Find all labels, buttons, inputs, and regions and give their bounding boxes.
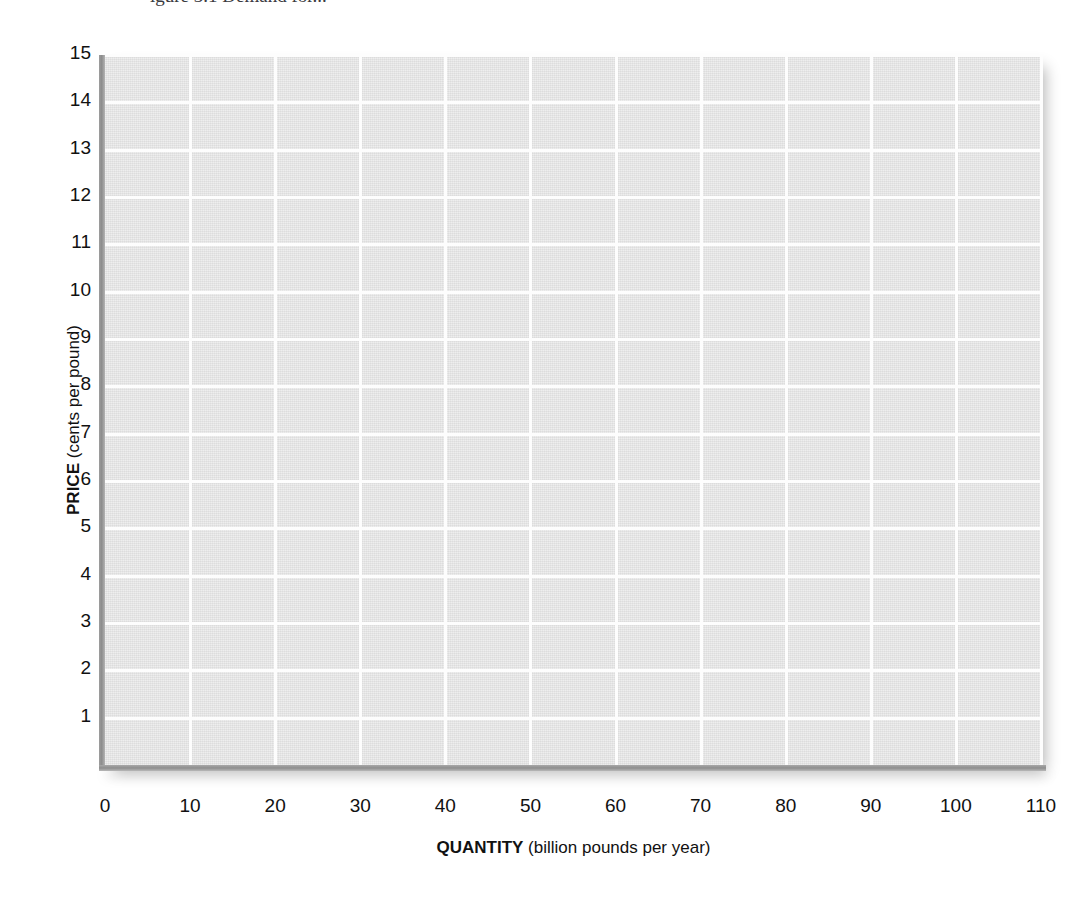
x-tick-label: 100 [911,795,1001,817]
gridline-horizontal [105,433,1041,436]
y-axis-title-rest: (cents per pound) [64,325,83,463]
gridline-horizontal [105,717,1041,720]
y-axis-title-bold: PRICE [64,463,83,515]
x-tick-label: 10 [145,795,235,817]
gridline-vertical [1040,55,1043,765]
gridline-horizontal [105,385,1041,388]
y-tick-label: 15 [7,42,91,64]
plot-texture-overlay [105,55,1041,765]
gridline-horizontal [105,101,1041,104]
gridline-horizontal [105,669,1041,672]
gridline-vertical [700,55,703,765]
gridline-vertical [274,55,277,765]
x-tick-label: 70 [656,795,746,817]
x-tick-label: 80 [741,795,831,817]
gridline-horizontal [105,622,1041,625]
x-tick-label: 30 [315,795,405,817]
x-axis-title-bold: QUANTITY [437,838,524,857]
x-tick-label: 0 [60,795,150,817]
x-tick-label: 60 [571,795,661,817]
x-tick-label: 50 [485,795,575,817]
x-axis-tick-labels: 0102030405060708090100110 [0,795,1081,825]
x-axis-title: QUANTITY (billion pounds per year) [0,838,1081,858]
plot-area [105,55,1041,765]
gridline-vertical [615,55,618,765]
gridline-horizontal [105,54,1041,57]
gridline-horizontal [105,196,1041,199]
gridline-vertical [785,55,788,765]
gridline-vertical [189,55,192,765]
x-tick-label: 90 [826,795,916,817]
x-axis-title-rest: (billion pounds per year) [523,838,710,857]
chart-figure: 151413121110987654321 010203040506070809… [0,0,1081,897]
gridline-vertical [359,55,362,765]
x-tick-label: 20 [230,795,320,817]
gridline-horizontal [105,480,1041,483]
gridline-horizontal [105,575,1041,578]
x-axis-line [99,765,1046,771]
x-tick-label: 40 [400,795,490,817]
y-axis-title: PRICE (cents per pound) [64,70,84,770]
x-tick-label: 110 [996,795,1081,817]
gridline-horizontal [105,149,1041,152]
gridline-horizontal [105,338,1041,341]
gridline-vertical [870,55,873,765]
gridline-horizontal [105,527,1041,530]
gridline-vertical [955,55,958,765]
y-axis-line [99,55,105,771]
gridline-vertical [444,55,447,765]
gridline-vertical [529,55,532,765]
gridline-horizontal [105,291,1041,294]
gridline-horizontal [105,243,1041,246]
